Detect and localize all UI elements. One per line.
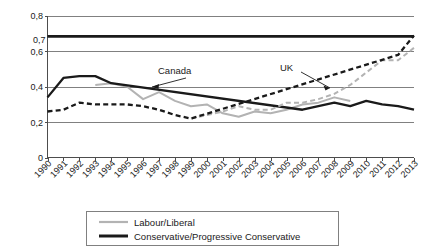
x-tick-label-2009: 2009 <box>335 158 356 179</box>
x-tick-label-2006: 2006 <box>287 158 308 179</box>
series-group <box>48 35 415 118</box>
legend-item-conservative: Conservative/Progressive Conservative <box>99 231 300 242</box>
series-line-uk-conservative-progressive-conservative <box>48 35 415 118</box>
x-tick-label-2005: 2005 <box>271 158 292 179</box>
x-tick-label-1991: 1991 <box>48 158 69 179</box>
x-tick-label-1993: 1993 <box>80 158 101 179</box>
annotation-canada-label: Canada <box>158 65 192 76</box>
x-tick-label-2007: 2007 <box>303 158 324 179</box>
x-axis-tick-labels: 1990199119921993199419951996199719981999… <box>32 158 420 179</box>
legend-item-labour-liberal: Labour/Liberal <box>99 217 195 228</box>
gridlines-group <box>48 17 415 123</box>
x-tick-label-2000: 2000 <box>192 158 213 179</box>
x-tick-label-1998: 1998 <box>160 158 181 179</box>
chart-container: 00,20,40,60,8 19901991199219931994199519… <box>0 0 424 251</box>
y-tick-label-0,2: 0,2 <box>30 118 43 128</box>
line-chart: 00,20,40,60,8 19901991199219931994199519… <box>0 0 424 251</box>
x-tick-label-2001: 2001 <box>207 158 228 179</box>
reference-line-value-label: 0,7 <box>33 35 46 45</box>
x-tick-label-2013: 2013 <box>399 158 420 179</box>
x-tick-label-2010: 2010 <box>351 158 372 179</box>
x-tick-label-1999: 1999 <box>176 158 197 179</box>
x-tick-label-1994: 1994 <box>96 158 117 179</box>
legend-label-conservative: Conservative/Progressive Conservative <box>134 231 300 242</box>
x-tick-label-2008: 2008 <box>319 158 340 179</box>
legend: Labour/Liberal Conservative/Progressive … <box>87 212 339 246</box>
series-line-canada-conservative-progressive-conservative <box>48 76 415 110</box>
annotation-uk: UK <box>280 62 330 91</box>
y-tick-label-0,6: 0,6 <box>30 47 43 57</box>
x-tick-label-2003: 2003 <box>239 158 260 179</box>
annotation-canada: Canada <box>152 65 192 89</box>
x-tick-label-1995: 1995 <box>112 158 133 179</box>
x-tick-label-1992: 1992 <box>64 158 85 179</box>
annotation-uk-label: UK <box>280 62 294 73</box>
y-tick-label-0,4: 0,4 <box>30 82 43 92</box>
x-tick-label-1996: 1996 <box>128 158 149 179</box>
y-tick-label-0,8: 0,8 <box>30 11 43 21</box>
legend-label-labour-liberal: Labour/Liberal <box>134 217 195 228</box>
annotation-uk-arrow-line <box>301 72 330 88</box>
x-tick-label-1990: 1990 <box>32 158 53 179</box>
x-tick-label-2012: 2012 <box>383 158 404 179</box>
x-tick-label-1997: 1997 <box>144 158 165 179</box>
x-tick-label-2002: 2002 <box>223 158 244 179</box>
x-tick-label-2004: 2004 <box>255 158 276 179</box>
